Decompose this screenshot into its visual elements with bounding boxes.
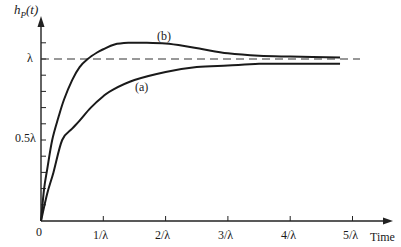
x-axis-arrow-icon bbox=[383, 218, 393, 225]
curve-b-label: (b) bbox=[157, 29, 171, 44]
x-tick-label-origin: 0 bbox=[36, 225, 42, 240]
y-axis-arrow-icon bbox=[38, 16, 45, 27]
curve-b bbox=[41, 43, 340, 221]
y-axis-argument: (t) bbox=[26, 2, 38, 17]
x-tick-label-2: 2/λ bbox=[155, 228, 170, 243]
y-tick-label-half-lambda: 0.5λ bbox=[15, 131, 36, 146]
y-tick-label-lambda: λ bbox=[27, 51, 33, 66]
x-tick-label-5: 5/λ bbox=[343, 228, 358, 243]
chart-canvas bbox=[0, 0, 401, 247]
x-tick-label-1: 1/λ bbox=[93, 228, 108, 243]
x-tick-label-4: 4/λ bbox=[281, 228, 296, 243]
y-axis-label: hP(t) bbox=[14, 2, 38, 20]
curve-a bbox=[41, 64, 340, 221]
x-tick-label-3: 3/λ bbox=[218, 228, 233, 243]
x-axis-label: Time bbox=[370, 230, 395, 245]
curve-a-label: (a) bbox=[135, 80, 148, 95]
